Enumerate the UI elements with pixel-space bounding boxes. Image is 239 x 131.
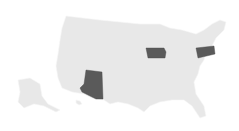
- state-pennsylvania[interactable]: [196, 46, 215, 58]
- us-map: [0, 0, 239, 131]
- us-map-svg: [0, 0, 239, 131]
- hawaii: [76, 100, 82, 105]
- state-iowa[interactable]: [146, 48, 166, 58]
- alaska: [18, 78, 60, 112]
- contiguous-us: [56, 16, 226, 118]
